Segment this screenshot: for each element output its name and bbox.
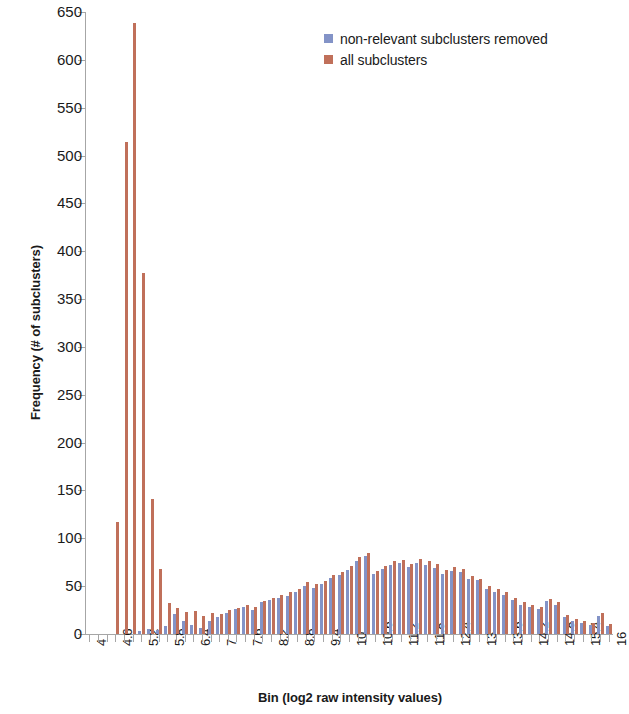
bar-all-subclusters bbox=[194, 611, 197, 634]
plot-area: 050100150200250300350400450500550600650 … bbox=[85, 12, 613, 635]
bar-all-subclusters bbox=[453, 567, 456, 634]
bar-all-subclusters bbox=[133, 23, 136, 634]
x-tick-mark bbox=[98, 635, 99, 642]
bar-all-subclusters bbox=[185, 612, 188, 634]
bar-all-subclusters bbox=[237, 608, 240, 634]
x-tick-mark bbox=[150, 635, 151, 642]
bar-all-subclusters bbox=[315, 584, 318, 634]
y-tick-label: 500 bbox=[36, 147, 82, 164]
bar-all-subclusters bbox=[566, 615, 569, 634]
y-tick-label: 150 bbox=[36, 481, 82, 498]
bar-all-subclusters bbox=[462, 569, 465, 634]
bar-all-subclusters bbox=[220, 614, 223, 634]
x-tick-mark bbox=[159, 635, 160, 642]
bar-all-subclusters bbox=[228, 610, 231, 634]
x-axis-title: Bin (log2 raw intensity values) bbox=[85, 690, 615, 705]
x-tick-mark bbox=[574, 635, 575, 642]
x-tick-mark bbox=[548, 635, 549, 642]
x-tick-mark bbox=[392, 635, 393, 642]
x-tick-mark bbox=[487, 635, 488, 642]
x-tick-mark bbox=[583, 635, 584, 642]
bar-all-subclusters bbox=[263, 601, 266, 634]
x-tick-mark bbox=[115, 635, 116, 642]
x-tick-mark bbox=[219, 635, 220, 642]
x-tick-mark bbox=[453, 635, 454, 642]
bar-all-subclusters bbox=[436, 564, 439, 634]
bar-all-subclusters bbox=[384, 566, 387, 634]
x-tick-mark bbox=[470, 635, 471, 642]
y-tick-label: 100 bbox=[36, 529, 82, 546]
bar-all-subclusters bbox=[176, 608, 179, 634]
bar-all-subclusters bbox=[168, 603, 171, 634]
x-tick-mark bbox=[600, 635, 601, 642]
bar-all-subclusters bbox=[419, 559, 422, 634]
x-tick-mark bbox=[262, 635, 263, 642]
x-tick-mark bbox=[245, 635, 246, 642]
y-tick-label: 200 bbox=[36, 434, 82, 451]
x-tick-mark bbox=[401, 635, 402, 642]
x-tick-mark bbox=[107, 635, 108, 642]
y-tick-label: 650 bbox=[36, 3, 82, 20]
bar-all-subclusters bbox=[601, 613, 604, 634]
bar-all-subclusters bbox=[549, 599, 552, 634]
bar-all-subclusters bbox=[514, 598, 517, 634]
bar-all-subclusters bbox=[575, 619, 578, 634]
x-tick-mark bbox=[565, 635, 566, 642]
x-tick-mark bbox=[366, 635, 367, 642]
x-tick-mark bbox=[410, 635, 411, 642]
bar-all-subclusters bbox=[488, 586, 491, 634]
x-tick-mark bbox=[306, 635, 307, 642]
y-tick-label: 250 bbox=[36, 386, 82, 403]
x-tick-mark bbox=[531, 635, 532, 642]
x-tick-mark bbox=[479, 635, 480, 642]
x-tick-mark bbox=[418, 635, 419, 642]
legend-item: non-relevant subclusters removed bbox=[324, 28, 548, 49]
y-axis-line bbox=[85, 12, 86, 635]
bar-all-subclusters bbox=[211, 613, 214, 634]
bar-all-subclusters bbox=[289, 592, 292, 634]
y-tick-label: 50 bbox=[36, 577, 82, 594]
x-tick-mark bbox=[211, 635, 212, 642]
x-tick-mark bbox=[539, 635, 540, 642]
bar-all-subclusters bbox=[202, 616, 205, 634]
x-tick-mark bbox=[340, 635, 341, 642]
x-tick-mark bbox=[167, 635, 168, 642]
bar-all-subclusters bbox=[272, 598, 275, 634]
bar-all-subclusters bbox=[350, 566, 353, 634]
x-tick-mark bbox=[522, 635, 523, 642]
y-tick-label: 600 bbox=[36, 51, 82, 68]
x-tick-mark bbox=[314, 635, 315, 642]
x-tick-mark bbox=[436, 635, 437, 642]
x-tick-mark bbox=[323, 635, 324, 642]
bar-all-subclusters bbox=[376, 571, 379, 634]
y-tick-label: 400 bbox=[36, 242, 82, 259]
x-tick-mark bbox=[332, 635, 333, 642]
bar-all-subclusters bbox=[341, 572, 344, 634]
y-tick-label: 300 bbox=[36, 338, 82, 355]
x-tick-mark bbox=[375, 635, 376, 642]
bar-all-subclusters bbox=[540, 607, 543, 634]
x-tick-mark bbox=[557, 635, 558, 642]
bar-all-subclusters bbox=[142, 273, 145, 634]
x-tick-mark bbox=[288, 635, 289, 642]
x-tick-mark bbox=[496, 635, 497, 642]
bar-all-subclusters bbox=[497, 589, 500, 634]
x-tick-mark bbox=[349, 635, 350, 642]
y-tick-label: 550 bbox=[36, 99, 82, 116]
x-tick-mark bbox=[513, 635, 514, 642]
y-tick-label: 350 bbox=[36, 290, 82, 307]
bar-all-subclusters bbox=[471, 576, 474, 634]
x-tick-mark bbox=[176, 635, 177, 642]
bar-all-subclusters bbox=[410, 564, 413, 634]
bar-all-subclusters bbox=[592, 623, 595, 634]
legend-label: all subclusters bbox=[340, 52, 427, 68]
x-tick-mark bbox=[254, 635, 255, 642]
x-tick-mark bbox=[384, 635, 385, 642]
x-tick-mark bbox=[444, 635, 445, 642]
x-tick-mark bbox=[236, 635, 237, 642]
x-tick-mark bbox=[505, 635, 506, 642]
x-tick-mark bbox=[297, 635, 298, 642]
bar-all-subclusters bbox=[531, 605, 534, 634]
bar-all-subclusters bbox=[393, 561, 396, 634]
bar-all-subclusters bbox=[298, 589, 301, 634]
